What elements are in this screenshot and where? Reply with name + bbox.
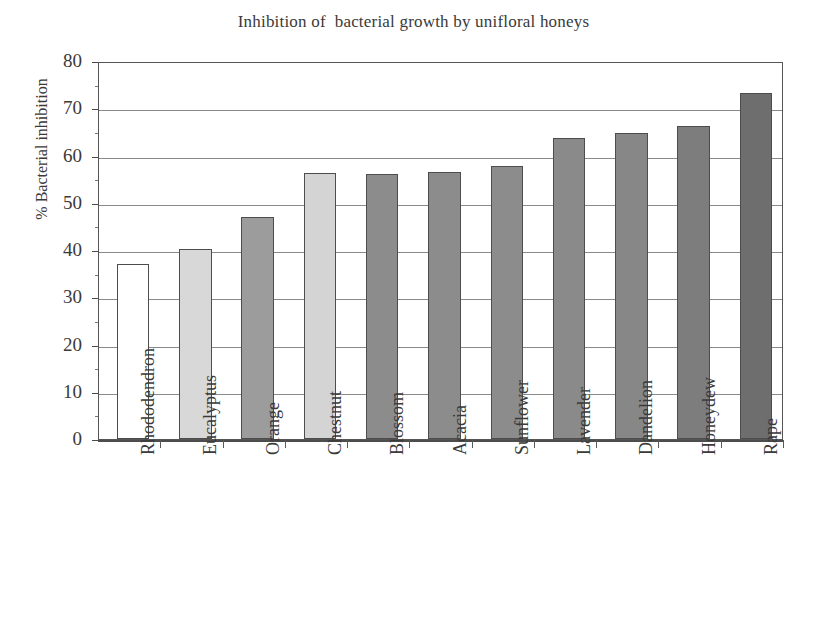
x-label-rhododendron: Rhododendron	[139, 348, 157, 455]
bar-acacia	[428, 172, 460, 439]
x-tick-mark	[223, 440, 224, 448]
x-tick-mark	[285, 440, 286, 448]
x-label-chestnut: Chestnut	[326, 391, 344, 455]
y-tick-label: 50	[20, 193, 82, 212]
y-tick-label: 20	[20, 335, 82, 354]
x-label-rape: Rape	[762, 418, 780, 455]
x-label-honeydew: Honeydew	[700, 377, 718, 455]
x-label-acacia: Acacia	[451, 405, 469, 455]
chart-figure: Inhibition of bacterial growth by uniflo…	[0, 0, 827, 623]
y-tick-label: 10	[20, 382, 82, 401]
x-tick-mark	[721, 440, 722, 448]
x-tick-mark	[409, 440, 410, 448]
x-tick-mark	[596, 440, 597, 448]
x-label-blossom: Blossom	[388, 392, 406, 455]
x-tick-mark	[347, 440, 348, 448]
x-tick-mark	[783, 440, 784, 448]
y-tick-label: 60	[20, 146, 82, 165]
x-tick-mark	[160, 440, 161, 448]
x-tick-mark	[658, 440, 659, 448]
gridline	[99, 110, 782, 111]
y-tick-label: 0	[20, 429, 82, 448]
y-axis-ticks: 01020304050607080	[0, 0, 98, 623]
x-label-sunflower: Sunflower	[513, 380, 531, 455]
x-label-eucalyptus: Eucalyptus	[201, 375, 219, 455]
x-label-dandelion: Dandelion	[637, 380, 655, 455]
bar-rape	[740, 93, 772, 439]
y-tick-label: 40	[20, 240, 82, 259]
y-tick-label: 80	[20, 51, 82, 70]
y-tick-label: 70	[20, 98, 82, 117]
x-tick-mark	[472, 440, 473, 448]
x-tick-mark	[534, 440, 535, 448]
chart-title: Inhibition of bacterial growth by uniflo…	[0, 12, 827, 32]
y-tick-label: 30	[20, 287, 82, 306]
x-label-lavender: Lavender	[575, 387, 593, 455]
x-label-orange: Orange	[264, 402, 282, 455]
